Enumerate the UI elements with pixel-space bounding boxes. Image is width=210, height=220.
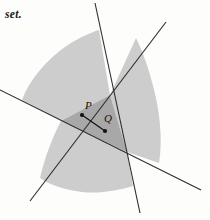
geometry-figure (0, 0, 210, 220)
point-p-label: P (85, 100, 92, 111)
point-q-label: Q (104, 113, 112, 124)
point-q-marker (103, 129, 107, 133)
point-p-marker (80, 113, 84, 117)
caption-text-fragment: set. (5, 9, 22, 21)
figure-container: set. P Q (0, 0, 210, 220)
